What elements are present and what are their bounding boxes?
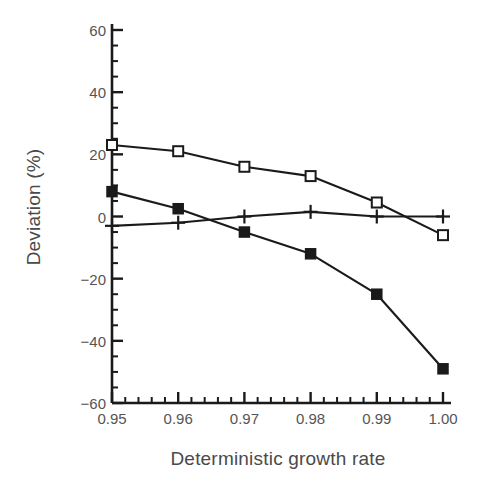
y-axis-tick-label: 60 [89, 22, 106, 39]
marker-open-square [438, 230, 448, 240]
marker-filled-square [306, 249, 316, 259]
y-axis-tick-label: −40 [81, 332, 106, 349]
x-axis-tick-label: 0.96 [164, 410, 193, 427]
marker-open-square [107, 140, 117, 150]
y-axis-label: Deviation (%) [23, 87, 45, 327]
marker-open-square [239, 162, 249, 172]
marker-open-square [306, 171, 316, 181]
marker-open-square [173, 146, 183, 156]
x-axis-tick-label: 0.97 [230, 410, 259, 427]
marker-filled-square [107, 187, 117, 197]
x-axis-label: Deterministic growth rate [112, 448, 444, 470]
marker-filled-square [372, 289, 382, 299]
x-axis-tick-label: 1.00 [428, 410, 457, 427]
y-axis-tick-label: 20 [89, 146, 106, 163]
chart-figure: Deviation (%) 6040200−20−40−60 Determini… [0, 0, 502, 485]
x-axis-tick-label: 0.95 [97, 410, 126, 427]
y-axis-tick-label: −20 [81, 270, 106, 287]
x-axis-tick-label: 0.98 [296, 410, 325, 427]
y-axis-tick-label: 40 [89, 84, 106, 101]
series-line-open-square-series [112, 145, 443, 235]
marker-filled-square [438, 364, 448, 374]
y-axis-tick-label: 0 [98, 208, 106, 225]
marker-filled-square [173, 204, 183, 214]
series-line-filled-square-series [112, 192, 443, 369]
x-axis-tick-label: 0.99 [362, 410, 391, 427]
series-line-plus-series [112, 212, 443, 226]
marker-open-square [372, 198, 382, 208]
y-axis-tick-label: −60 [81, 395, 106, 412]
marker-filled-square [239, 227, 249, 237]
